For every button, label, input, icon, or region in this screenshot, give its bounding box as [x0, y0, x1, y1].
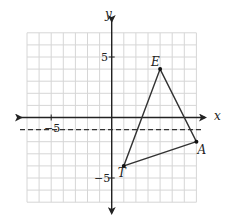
tick-label-y-neg5: −5	[94, 172, 110, 185]
vertex-label-e: E	[150, 55, 160, 69]
axes	[21, 21, 205, 213]
y-axis-label: y	[104, 7, 112, 21]
vertex-label-t: T	[118, 166, 127, 180]
labels: xy−55−5EAT	[44, 7, 221, 185]
x-axis-label: x	[214, 109, 221, 123]
tick-label-y-5: 5	[101, 51, 108, 64]
coordinate-plane: xy−55−5EAT	[0, 0, 227, 224]
tick-label-x-neg5: −5	[44, 122, 60, 135]
vertex-label-a: A	[196, 143, 206, 157]
